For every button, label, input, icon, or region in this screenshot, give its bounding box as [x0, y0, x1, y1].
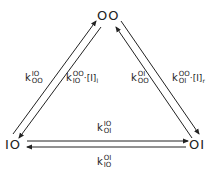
rate-io-oi: kIOOI: [97, 121, 111, 135]
state-oi: OI: [189, 138, 205, 151]
state-io: IO: [5, 138, 21, 151]
rate-oi-io: kOIIO: [97, 155, 111, 169]
state-oo: OO: [97, 9, 119, 22]
rate-oo-io: kOOIO·[I]l: [66, 71, 98, 85]
rate-oi-oo: kOIOO: [131, 71, 149, 85]
arrow-lines: [0, 0, 218, 175]
rate-io-oo: kIOOO: [25, 71, 43, 85]
rate-oo-oi: kOOOI·[I]r: [172, 71, 205, 85]
kinetic-scheme-diagram: OO IO OI kIOOO kOOIO·[I]l kOIOO kOOOI·[I…: [0, 0, 218, 175]
